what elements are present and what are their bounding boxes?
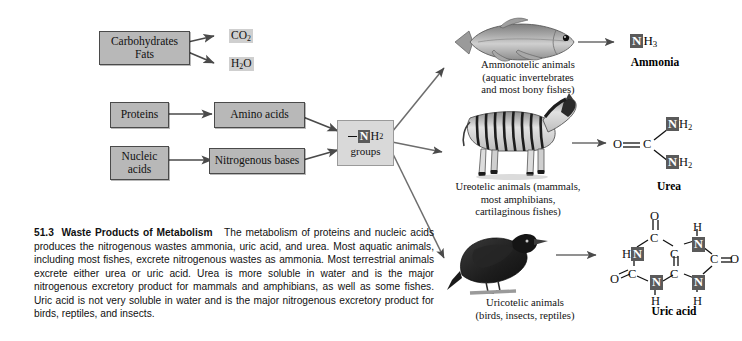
uricacid-carbon-topleft: C (650, 231, 658, 246)
zebra-illustration (463, 93, 576, 180)
label-line: cartilaginous fishes) (432, 206, 604, 219)
hydrogen-count: 3 (653, 39, 657, 49)
pathway-label-ureotelic: Ureotelic animals (mammals, most amphibi… (432, 181, 604, 219)
urea-oxygen: O (613, 137, 622, 152)
urea-amine-bottom: NH2 (666, 155, 692, 170)
hydrogen-symbol: H (370, 129, 379, 144)
uricacid-carbon-bottomleft: C (628, 267, 636, 282)
arrow-bases-amine (303, 150, 338, 160)
label-line: (aquatic invertebrates (452, 72, 604, 85)
label-line: Uricotelic animals (441, 297, 609, 310)
figure-caption: 51.3 Waste Products of Metabolism The me… (34, 226, 434, 321)
hydrogen-symbol: H (679, 117, 688, 131)
intermediate-label: Amino acids (230, 108, 288, 121)
arrow-amino-amine (303, 117, 338, 131)
urea-amine-top: NH2 (666, 117, 692, 132)
uricacid-carbon-centertop: C (670, 247, 678, 262)
nitrogen-badge: N (630, 34, 643, 48)
hydrogen-count: 2 (688, 160, 692, 170)
urea-carbon: C (643, 137, 651, 152)
pathway-label-ammonotelic: Ammonotelic animals (aquatic invertebrat… (452, 59, 604, 97)
amine-group-node[interactable]: NH2 groups (337, 120, 394, 166)
input-box-carbohydrates-fats[interactable]: Carbohydrates Fats (99, 31, 190, 65)
uricacid-oxygen-top: O (650, 209, 659, 224)
input-label-proteins: Proteins (121, 108, 159, 121)
uricacid-hn-left: HN (622, 247, 644, 262)
ammonia-formula: NH3 (630, 33, 657, 49)
hydrogen-count: 2 (379, 132, 383, 141)
arrow-to-h2o (188, 52, 214, 63)
uricacid-oxygen-right: O (730, 252, 739, 267)
arrow-amine-ureotelic (392, 142, 442, 152)
label-line: Ureotelic animals (mammals, (432, 181, 604, 194)
label-line: Ammonotelic animals (452, 59, 604, 72)
label-line: most amphibians, (432, 194, 604, 207)
amine-formula: NH2 (348, 129, 383, 144)
amine-groups-label: groups (351, 145, 381, 157)
arrow-amine-ammonotelic (392, 68, 444, 132)
input-label-line1: Nucleic (122, 150, 158, 163)
fish-illustration (455, 18, 574, 61)
nitrogen-badge: N (666, 117, 679, 131)
uricacid-nitrogen-topright: N (692, 237, 705, 252)
product-name-urea: Urea (634, 180, 704, 192)
uricacid-carbon-right: C (710, 252, 718, 267)
uricacid-nitrogen-bottomright: N (692, 275, 705, 290)
byproduct-h2o: H2O (229, 57, 254, 71)
hydrogen-symbol: H (622, 247, 631, 261)
input-label-line2: Fats (111, 48, 178, 61)
uricacid-hydrogen-topright: H (693, 220, 702, 235)
product-name-uric-acid: Uric acid (634, 305, 714, 317)
pathway-label-uricotelic: Uricotelic animals (birds, insects, rept… (441, 297, 609, 322)
uricacid-carbon-centerbottom: C (670, 267, 678, 282)
co2-symbol: CO (231, 29, 247, 41)
figure-canvas: Carbohydrates Fats Proteins Nucleic acid… (0, 0, 742, 341)
label-line: (birds, insects, reptiles) (441, 310, 609, 323)
nitrogen-badge: N (358, 130, 371, 143)
uricacid-oxygen-left: O (610, 272, 619, 287)
input-label-line2: acids (122, 163, 158, 176)
figure-title: Waste Products of Metabolism (62, 227, 213, 238)
intermediate-box-amino-acids[interactable]: Amino acids (214, 102, 305, 128)
figure-caption-text: The metabolism of proteins and nucleic a… (34, 227, 434, 319)
arrow-to-co2 (188, 36, 214, 42)
intermediate-label: Nitrogenous bases (215, 154, 300, 167)
product-name-ammonia: Ammonia (611, 56, 699, 68)
intermediate-box-nitrogenous-bases[interactable]: Nitrogenous bases (209, 148, 305, 174)
uricacid-nitrogen-bottom: N (650, 275, 663, 290)
hydrogen-count: 2 (688, 122, 692, 132)
bond-dash-icon (348, 136, 357, 138)
label-line: and most bony fishes) (452, 84, 604, 97)
co2-subscript: 2 (247, 34, 251, 43)
figure-number: 51.3 (34, 227, 54, 238)
hydrogen-symbol: H (679, 155, 688, 169)
input-box-nucleic-acids[interactable]: Nucleic acids (110, 146, 169, 180)
nitrogen-badge: N (631, 247, 644, 261)
bird-illustration (447, 234, 548, 293)
byproduct-co2: CO2 (229, 29, 253, 43)
input-label-line1: Carbohydrates (111, 35, 178, 48)
nitrogen-badge: N (666, 155, 679, 169)
hydrogen-symbol: H (643, 33, 652, 48)
input-box-proteins[interactable]: Proteins (110, 102, 169, 128)
h2o-tail: O (243, 57, 251, 69)
